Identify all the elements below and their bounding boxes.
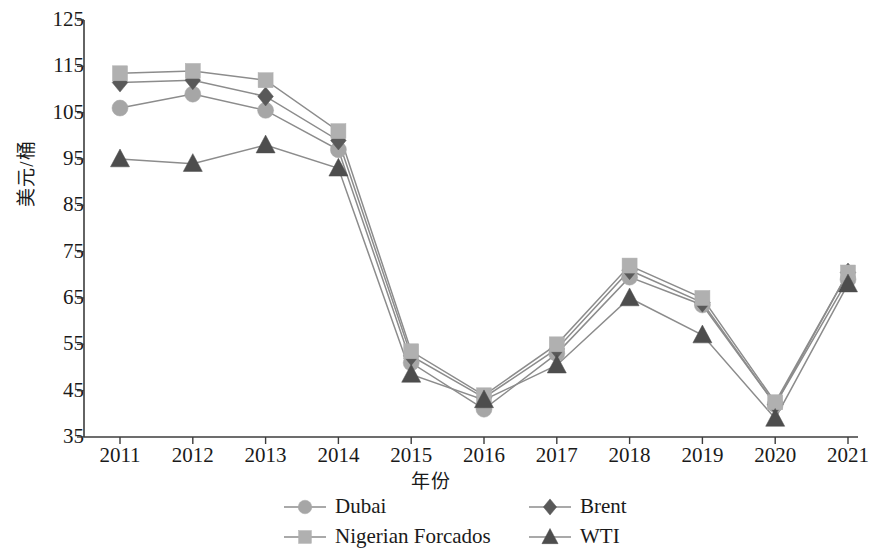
circle-marker: [112, 100, 128, 116]
legend-item-wti[interactable]: WTI: [528, 526, 620, 547]
data-point-square: [258, 73, 273, 88]
data-point-triangle: [256, 135, 275, 153]
data-point-square: [404, 344, 419, 359]
triangle-marker: [620, 288, 639, 306]
series-wti: [120, 145, 848, 418]
square-marker: [113, 66, 128, 81]
legend-label: Brent: [578, 496, 627, 517]
x-tick-label: 2018: [590, 443, 670, 468]
data-point-circle: [112, 100, 128, 116]
square-marker: [695, 291, 710, 306]
triangle-marker: [111, 149, 130, 167]
square-marker: [768, 395, 783, 410]
legend-marker-circle-icon: [283, 498, 327, 516]
x-tick-label: 2014: [298, 443, 378, 468]
x-tick-label: 2011: [80, 443, 160, 468]
data-point-square: [622, 258, 637, 273]
diamond-marker: [543, 498, 556, 514]
triangle-marker: [542, 528, 558, 543]
x-tick-label: 2012: [153, 443, 233, 468]
square-marker: [549, 337, 564, 352]
legend: DubaiBrentNigerian ForcadosWTI: [0, 494, 861, 552]
markers-wti: [111, 135, 858, 426]
square-marker: [404, 344, 419, 359]
legend-item-dubai[interactable]: Dubai: [283, 496, 386, 517]
data-point-circle: [298, 500, 312, 514]
data-point-triangle: [542, 528, 558, 543]
x-tick-label: 2015: [371, 443, 451, 468]
data-point-square: [549, 337, 564, 352]
x-tick-label: 2013: [226, 443, 306, 468]
data-point-square: [185, 63, 200, 78]
data-point-diamond: [258, 87, 274, 106]
x-tick-label: 2019: [662, 443, 742, 468]
x-tick-label: 2021: [808, 443, 873, 468]
square-marker: [185, 63, 200, 78]
diamond-marker: [258, 87, 274, 106]
triangle-marker: [693, 325, 712, 343]
data-point-square: [113, 66, 128, 81]
square-marker: [622, 258, 637, 273]
circle-marker: [298, 500, 312, 514]
data-point-square: [768, 395, 783, 410]
square-marker: [258, 73, 273, 88]
data-point-square: [695, 291, 710, 306]
legend-marker-triangle-icon: [528, 528, 572, 546]
legend-item-nigerian-forcados[interactable]: Nigerian Forcados: [283, 526, 491, 547]
square-marker: [299, 530, 312, 543]
series-line: [120, 94, 848, 409]
series-group: [111, 63, 858, 426]
data-point-square: [299, 530, 312, 543]
data-point-triangle: [111, 149, 130, 167]
series-dubai: [120, 94, 848, 409]
x-tick-label: 2016: [444, 443, 524, 468]
markers-dubai: [112, 86, 856, 417]
legend-marker-diamond-icon: [528, 498, 572, 516]
legend-marker-square-icon: [283, 528, 327, 546]
legend-label: WTI: [578, 526, 620, 547]
data-point-triangle: [620, 288, 639, 306]
square-marker: [331, 124, 346, 139]
data-point-triangle: [693, 325, 712, 343]
plot-area: [0, 0, 861, 460]
legend-label: Nigerian Forcados: [333, 526, 491, 547]
legend-label: Dubai: [333, 496, 386, 517]
data-point-diamond: [543, 498, 556, 514]
x-tick-label: 2020: [735, 443, 815, 468]
series-line: [120, 145, 848, 418]
x-axis-title: 年份: [0, 466, 861, 493]
data-point-square: [331, 124, 346, 139]
legend-item-brent[interactable]: Brent: [528, 496, 627, 517]
triangle-marker: [256, 135, 275, 153]
x-tick-label: 2017: [517, 443, 597, 468]
